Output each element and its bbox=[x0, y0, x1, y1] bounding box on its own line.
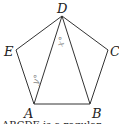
diagonal-DB bbox=[62, 16, 90, 104]
vertex-label-E: E bbox=[3, 44, 14, 59]
diagonal-DA bbox=[34, 16, 62, 104]
vertex-label-D: D bbox=[56, 1, 68, 16]
caption-text: ABCDE is a regular bbox=[1, 119, 101, 124]
angle-label-x: x° bbox=[55, 35, 68, 47]
pentagon-diagram: D E C A B x° y° ABCDE is a regular bbox=[0, 0, 119, 124]
vertex-label-C: C bbox=[110, 44, 119, 59]
pentagon-outline bbox=[16, 16, 108, 104]
